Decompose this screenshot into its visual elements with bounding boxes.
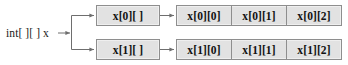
array-cell-0-2: x[0][2] bbox=[287, 6, 341, 25]
array-cell-1-2: x[1][2] bbox=[287, 40, 341, 59]
array-cell-1-2-label: x[1][2] bbox=[297, 44, 330, 56]
two-dimensional-array-diagram: int[ ][ ] x x[0][ ] x[1][ ] x[0][0] x[0]… bbox=[0, 0, 348, 65]
array-cell-1-0: x[1][0] bbox=[177, 40, 232, 59]
array-cell-0-2-label: x[0][2] bbox=[297, 10, 330, 22]
reference-box-row-0: x[0][ ] bbox=[96, 5, 160, 26]
array-row-0: x[0][0] x[0][1] x[0][2] bbox=[176, 5, 342, 26]
array-row-1: x[1][0] x[1][1] x[1][2] bbox=[176, 39, 342, 60]
array-cell-0-1-label: x[0][1] bbox=[242, 10, 275, 22]
reference-box-row-0-label: x[0][ ] bbox=[113, 10, 143, 22]
array-cell-0-0-label: x[0][0] bbox=[187, 10, 220, 22]
array-cell-1-1-label: x[1][1] bbox=[242, 44, 275, 56]
reference-box-row-1-label: x[1][ ] bbox=[113, 44, 143, 56]
array-cell-1-0-label: x[1][0] bbox=[187, 44, 220, 56]
array-cell-0-0: x[0][0] bbox=[177, 6, 232, 25]
reference-box-row-1: x[1][ ] bbox=[96, 39, 160, 60]
array-cell-0-1: x[0][1] bbox=[232, 6, 287, 25]
array-cell-1-1: x[1][1] bbox=[232, 40, 287, 59]
variable-declaration-label: int[ ][ ] x bbox=[6, 25, 66, 41]
